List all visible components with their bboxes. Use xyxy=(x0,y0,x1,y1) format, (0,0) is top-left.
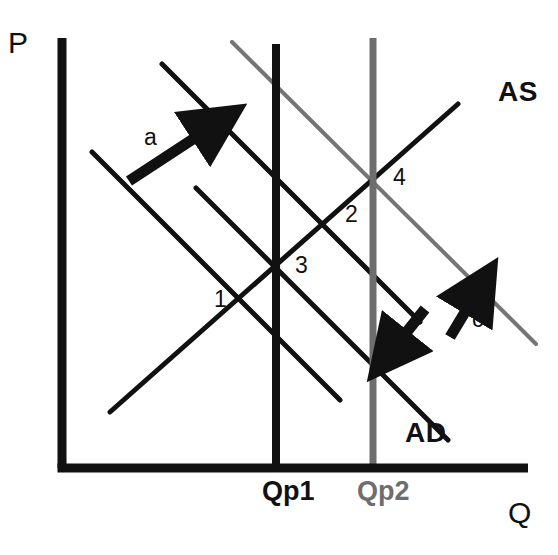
ad-label: AD xyxy=(405,419,446,447)
annotation-label-b: b xyxy=(408,339,421,362)
ad-as-chart-graphics xyxy=(0,0,558,555)
arrow-a xyxy=(129,124,216,181)
axis-label-quantity: Q xyxy=(508,498,531,528)
equilibrium-point-label-1: 1 xyxy=(214,288,227,311)
axis-tick-label-qp2: Qp2 xyxy=(357,478,410,505)
curve-as-1 xyxy=(110,104,458,412)
as-label: AS xyxy=(498,78,538,106)
axis-tick-label-qp1: Qp1 xyxy=(262,478,315,505)
annotation-label-a: a xyxy=(144,126,157,149)
diagram-canvas: Qp1Qp2abcASAD1234 P Q xyxy=(0,0,558,555)
equilibrium-point-label-4: 4 xyxy=(393,166,406,189)
equilibrium-point-label-3: 3 xyxy=(295,254,308,277)
axis-label-price: P xyxy=(8,28,28,58)
annotation-label-c: c xyxy=(472,308,484,331)
curve-group xyxy=(92,42,536,440)
equilibrium-point-label-2: 2 xyxy=(345,203,358,226)
